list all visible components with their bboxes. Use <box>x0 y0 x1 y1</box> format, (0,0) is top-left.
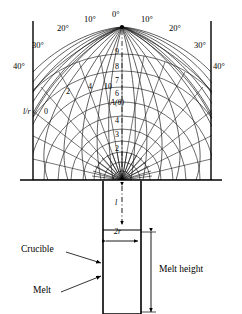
isoline-label-4: 4 <box>88 83 92 91</box>
angle-label-right-30: 30° <box>194 41 206 50</box>
angle-label-left-20: 20° <box>57 24 69 33</box>
angle-label-left-40: 40° <box>13 62 25 71</box>
angle-label-right-10: 10° <box>141 15 153 24</box>
axis-number-2: 2 <box>115 145 119 153</box>
angle-label-right-20: 20° <box>169 24 181 33</box>
neck-length-label: l <box>115 199 117 207</box>
ratio-label: l/r <box>23 108 31 116</box>
angle-label-right-40: 40° <box>213 62 225 71</box>
crucible-leader <box>66 252 101 263</box>
melt-label: Melt <box>33 286 51 296</box>
melt-height-label: Melt height <box>159 265 203 275</box>
diameter-label: 2r <box>114 228 121 236</box>
isoline-label-2: 2 <box>66 88 70 96</box>
melt-height-dimension <box>141 232 156 312</box>
axis-number-8: 8 <box>115 63 119 71</box>
angle-label-left-10: 10° <box>84 15 96 24</box>
axis-number-3: 3 <box>115 131 119 139</box>
isoline-label-10: 10 <box>104 83 112 91</box>
angle-label-left-30: 30° <box>32 41 44 50</box>
apex-point <box>120 25 124 29</box>
function-label: A(θ) <box>110 99 124 107</box>
axis-number-7: 7 <box>115 77 119 85</box>
isoline-arcs <box>0 54 242 180</box>
axis-number-9: 9 <box>115 48 119 56</box>
angle-label-center: 0° <box>112 10 120 19</box>
crucible-label: Crucible <box>21 245 54 255</box>
melt-leader <box>61 276 101 292</box>
axis-number-6: 6 <box>115 90 119 98</box>
figure-canvas: 0° 10° 20° 30° 40° 10° 20° 30° 40° l/r 0… <box>0 0 242 314</box>
radial-rays <box>0 54 242 180</box>
ratio-zero-label: 0 <box>44 108 48 116</box>
axis-number-4: 4 <box>115 117 119 125</box>
